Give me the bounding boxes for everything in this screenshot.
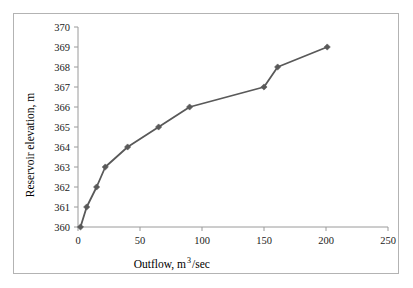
y-axis-ticks bbox=[74, 27, 78, 227]
y-tick-label: 370 bbox=[54, 22, 70, 33]
x-axis-tick-labels: 050100150200250 bbox=[75, 235, 396, 246]
reservoir-elevation-outflow-line-chart: 360361362363364365366367368369370 050100… bbox=[0, 0, 413, 288]
y-tick-label: 365 bbox=[54, 122, 70, 133]
y-tick-label: 360 bbox=[54, 222, 70, 233]
series-line bbox=[80, 47, 327, 227]
data-point-marker bbox=[324, 44, 330, 50]
y-tick-label: 361 bbox=[54, 202, 70, 213]
x-axis-ticks bbox=[78, 227, 388, 231]
x-axis-title-base: Outflow, m bbox=[134, 258, 186, 271]
x-tick-label: 0 bbox=[75, 235, 80, 246]
series-markers bbox=[77, 44, 330, 230]
x-tick-label: 100 bbox=[194, 235, 210, 246]
x-tick-label: 150 bbox=[256, 235, 272, 246]
x-axis-title-superscript: 3 bbox=[187, 256, 191, 265]
axis-lines bbox=[78, 27, 388, 227]
y-tick-label: 363 bbox=[54, 162, 70, 173]
x-axis-title-tail: /sec bbox=[192, 258, 210, 270]
data-point-marker bbox=[94, 184, 100, 190]
y-tick-label: 368 bbox=[54, 62, 70, 73]
y-tick-label: 362 bbox=[54, 182, 70, 193]
chart-figure: 360361362363364365366367368369370 050100… bbox=[0, 0, 413, 288]
x-axis-title: Outflow, m 3 /sec bbox=[134, 256, 210, 271]
y-tick-label: 364 bbox=[54, 142, 71, 153]
data-point-marker bbox=[84, 204, 90, 210]
x-tick-label: 250 bbox=[380, 235, 396, 246]
y-tick-label: 369 bbox=[54, 42, 70, 53]
x-tick-label: 200 bbox=[318, 235, 334, 246]
y-axis-title: Reservoir elevation, m bbox=[24, 93, 37, 197]
data-series-group bbox=[77, 44, 330, 230]
y-tick-label: 366 bbox=[54, 102, 70, 113]
x-tick-label: 50 bbox=[135, 235, 146, 246]
y-axis-tick-labels: 360361362363364365366367368369370 bbox=[54, 22, 71, 233]
y-tick-label: 367 bbox=[54, 82, 70, 93]
